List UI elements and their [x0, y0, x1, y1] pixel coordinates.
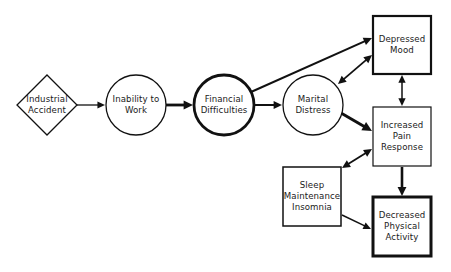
edge-sleep-maintenance-insomnia-to-decreased-physical-activity: [342, 215, 371, 229]
node-label-inability-to-work: Inability toWork: [106, 75, 166, 135]
node-label-increased-pain-response: IncreasedPainResponse: [373, 107, 431, 166]
node-label-decreased-physical-activity: DecreasedPhysicalActivity: [373, 197, 431, 256]
edge-line: [343, 59, 367, 79]
node-label-line: Maintenance: [284, 191, 340, 202]
node-label-line: Pain: [393, 131, 411, 142]
node-label-financial-difficulties: FinancialDifficulties: [194, 75, 254, 135]
edge-line: [348, 153, 367, 165]
edge-line: [341, 113, 365, 127]
arrowhead-icon: [184, 100, 193, 109]
edge-line: [342, 215, 365, 226]
edge-depressed-mood-to-increased-pain-response: [398, 75, 405, 106]
node-label-line: Physical: [384, 221, 420, 232]
node-label-line: Financial: [205, 94, 244, 105]
arrowhead-icon: [398, 75, 405, 83]
edge-increased-pain-response-to-decreased-physical-activity: [398, 167, 407, 196]
edge-financial-difficulties-to-marital-distress: [254, 101, 282, 109]
edge-inability-to-work-to-financial-difficulties: [166, 100, 193, 109]
node-label-sleep-maintenance-insomnia: SleepMaintenanceInsomnia: [283, 167, 341, 226]
node-label-line: Depressed: [379, 34, 426, 45]
edge-industrial-accident-to-inability-to-work: [77, 101, 105, 108]
node-label-line: Distress: [295, 105, 330, 116]
node-label-industrial-accident: IndustrialAccident: [17, 75, 77, 135]
node-label-line: Work: [125, 105, 147, 116]
node-label-line: Insomnia: [292, 202, 332, 213]
node-label-line: Increased: [381, 120, 424, 131]
node-label-line: Industrial: [26, 94, 67, 105]
node-label-line: Mood: [390, 45, 414, 56]
arrowhead-icon: [398, 187, 407, 196]
arrowhead-icon: [274, 101, 282, 109]
edge-marital-distress-to-increased-pain-response: [341, 113, 372, 131]
node-label-line: Marital: [298, 94, 328, 105]
node-label-line: Inability to: [113, 94, 160, 105]
arrowhead-icon: [398, 98, 405, 106]
node-label-line: Activity: [386, 232, 419, 243]
node-label-line: Sleep: [300, 180, 324, 191]
node-label-depressed-mood: DepressedMood: [373, 16, 431, 74]
node-label-line: Decreased: [379, 210, 426, 221]
node-label-line: Accident: [28, 105, 66, 116]
edge-marital-distress-to-depressed-mood: [338, 55, 372, 84]
node-label-marital-distress: MaritalDistress: [283, 75, 343, 135]
node-label-line: Response: [381, 142, 423, 153]
arrowhead-icon: [97, 101, 105, 108]
node-label-line: Difficulties: [201, 105, 248, 116]
nodes-layer: [17, 16, 431, 256]
edge-increased-pain-response-to-sleep-maintenance-insomnia: [342, 149, 372, 168]
